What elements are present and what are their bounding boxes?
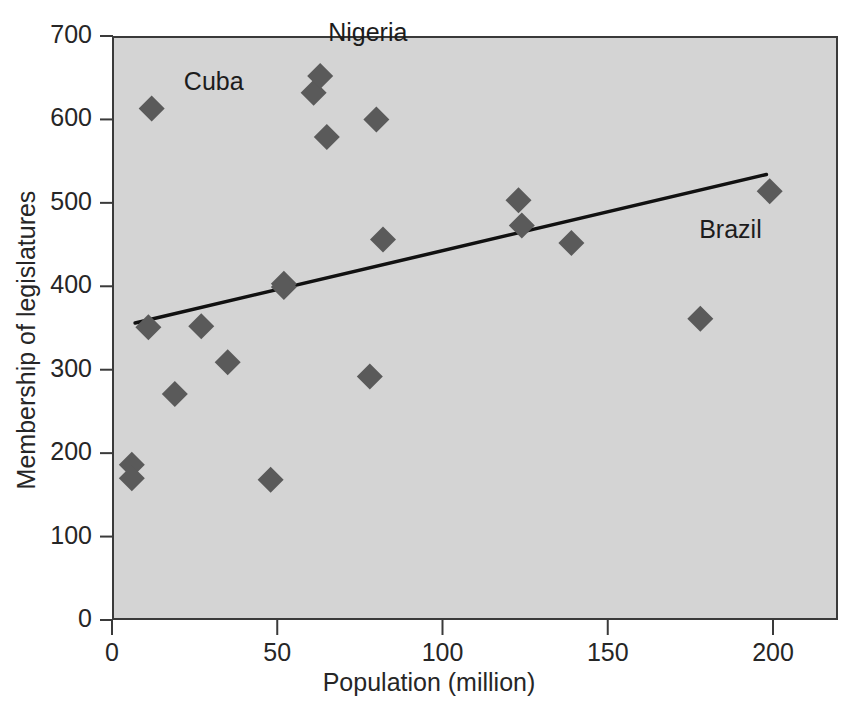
- x-tick-label: 50: [227, 638, 327, 667]
- y-axis-title: Membership of legislatures: [12, 40, 41, 640]
- x-tick-label: 0: [62, 638, 162, 667]
- annotation-brazil: Brazil: [699, 215, 762, 244]
- plot-area: [112, 36, 838, 620]
- x-axis-title: Population (million): [0, 668, 858, 697]
- x-tick-label: 200: [723, 638, 823, 667]
- annotation-nigeria: Nigeria: [328, 18, 407, 47]
- x-tick-label: 150: [558, 638, 658, 667]
- annotation-cuba: Cuba: [184, 67, 244, 96]
- x-tick-label: 100: [393, 638, 493, 667]
- scatter-chart-figure: 0100200300400500600700 050100150200 Nige…: [0, 0, 858, 711]
